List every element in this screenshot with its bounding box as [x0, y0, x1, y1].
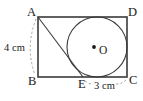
dimension-arc-ab	[30, 19, 36, 75]
circle-center-dot	[92, 45, 96, 49]
dimension-label-ec: 3 cm	[94, 81, 115, 92]
dimension-arc-e-side	[85, 81, 92, 84]
vertex-label-c: C	[129, 74, 137, 87]
dimension-arc-c-side	[116, 80, 126, 84]
rectangle-abcd-shape	[38, 17, 127, 77]
point-label-e: E	[78, 78, 86, 91]
center-label-o: O	[99, 45, 107, 57]
vertex-label-b: B	[28, 75, 36, 88]
vertex-label-d: D	[128, 6, 137, 19]
vertex-label-a: A	[27, 6, 36, 19]
geometry-figure: A B C D E O 4 cm 3 cm	[0, 0, 143, 101]
dimension-label-ab: 4 cm	[4, 43, 25, 54]
